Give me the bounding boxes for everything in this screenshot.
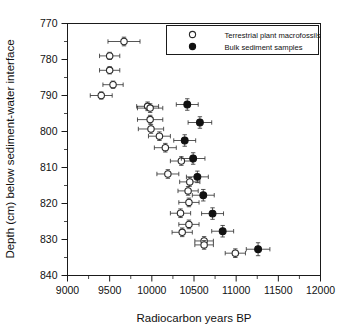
y-tick-label: 800 (40, 125, 58, 137)
y-tick-label: 830 (40, 233, 58, 245)
legend-filled-circle-marker (189, 43, 195, 49)
data-point (157, 170, 179, 179)
y-tick-label: 790 (40, 89, 58, 101)
data-point (137, 104, 162, 113)
data-point (246, 243, 270, 256)
data-points-layer (90, 37, 270, 257)
x-tick-label: 10500 (179, 284, 208, 296)
axes-layer: 9000950010000105001100011500120007707807… (40, 17, 335, 295)
open-circle-marker (232, 250, 238, 256)
open-circle-marker (185, 188, 191, 194)
data-point (176, 99, 198, 111)
data-point (137, 115, 162, 124)
x-tick-label: 11000 (222, 284, 251, 296)
data-point (212, 225, 234, 237)
filled-circle-marker (255, 246, 262, 253)
y-tick-label: 810 (40, 161, 58, 173)
x-tick-label: 11500 (264, 284, 293, 296)
data-point (170, 209, 190, 218)
chart-legend: Terrestrial plant macrofossilsBulk sedim… (167, 26, 321, 55)
open-circle-marker (177, 210, 183, 216)
y-tick-label: 840 (40, 269, 58, 281)
open-circle-marker (98, 92, 104, 98)
filled-circle-marker (209, 210, 216, 217)
data-point (154, 143, 176, 152)
filled-circle-marker (197, 119, 204, 126)
data-point (108, 37, 140, 46)
legend-label: Bulk sediment samples (225, 43, 303, 52)
x-tick-label: 10000 (137, 284, 166, 296)
x-axis-title: Radiocarbon years BP (136, 312, 251, 324)
series-terrestrial-macrofossils (90, 37, 245, 257)
chart-canvas: 9000950010000105001100011500120007707807… (0, 0, 346, 330)
legend-open-circle-marker (189, 31, 195, 37)
y-axis-title: Depth (cm) below sediment-water interfac… (4, 39, 16, 258)
data-point (100, 67, 120, 74)
x-tick-label: 9500 (98, 284, 122, 296)
open-circle-marker (148, 126, 154, 132)
open-circle-marker (147, 105, 153, 111)
open-circle-marker (162, 145, 168, 151)
open-circle-marker (201, 242, 207, 248)
data-point (174, 135, 196, 147)
plot-frame (68, 24, 321, 276)
open-circle-marker (110, 82, 116, 88)
open-circle-marker (156, 133, 162, 139)
data-point (103, 81, 123, 88)
filled-circle-marker (184, 101, 191, 108)
open-circle-marker (186, 221, 192, 227)
open-circle-marker (165, 171, 171, 177)
legend-label: Terrestrial plant macrofossils (225, 31, 321, 40)
open-circle-marker (121, 38, 127, 44)
data-point (188, 117, 212, 129)
open-circle-marker (179, 229, 185, 235)
data-point (179, 198, 199, 207)
data-point (172, 228, 192, 237)
data-point (195, 241, 214, 250)
x-tick-label: 9000 (56, 284, 80, 296)
y-tick-label: 770 (40, 17, 58, 29)
data-point (202, 208, 224, 220)
filled-circle-marker (190, 155, 197, 162)
open-circle-marker (186, 199, 192, 205)
data-point (225, 249, 245, 258)
filled-circle-marker (194, 173, 201, 180)
filled-circle-marker (219, 228, 226, 235)
radiocarbon-depth-scatter-figure: 9000950010000105001100011500120007707807… (0, 0, 346, 330)
data-point (100, 52, 120, 59)
x-tick-label: 12000 (306, 284, 335, 296)
open-circle-marker (106, 53, 112, 59)
filled-circle-marker (200, 192, 207, 199)
data-point (181, 153, 205, 165)
data-point (178, 187, 198, 196)
y-tick-label: 820 (40, 197, 58, 209)
data-point (179, 220, 199, 229)
y-tick-label: 780 (40, 53, 58, 65)
data-point (90, 92, 112, 99)
open-circle-marker (106, 67, 112, 73)
open-circle-marker (147, 116, 153, 122)
filled-circle-marker (181, 137, 188, 144)
open-circle-marker (187, 179, 193, 185)
